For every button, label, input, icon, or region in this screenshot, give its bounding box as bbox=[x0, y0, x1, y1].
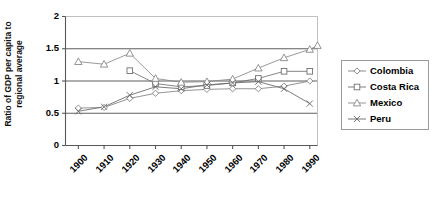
chart-figure: Ratio of GDP per capita toregional avera… bbox=[0, 0, 435, 198]
legend-label-peru: Peru bbox=[370, 113, 391, 124]
legend-label-mexico: Mexico bbox=[370, 97, 402, 108]
gridlines bbox=[66, 17, 318, 146]
legend-label-costa-rica: Costa Rica bbox=[370, 81, 419, 92]
legend-label-colombia: Colombia bbox=[370, 65, 413, 76]
series-layer bbox=[75, 42, 322, 115]
